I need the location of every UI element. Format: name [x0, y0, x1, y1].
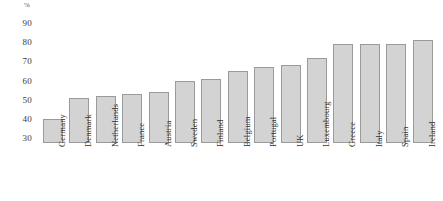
- x-tick-label-text: Finland: [215, 120, 225, 147]
- x-tick-label-text: Germany: [57, 114, 67, 147]
- y-tick-label: 50: [22, 95, 32, 105]
- bar: [360, 44, 380, 143]
- y-tick-label: 70: [22, 56, 32, 66]
- x-axis: GermanyDenmarkNetherlandsFranceAustriaSw…: [40, 145, 436, 201]
- x-tick-label-text: Denmark: [83, 114, 93, 147]
- plot-area: [40, 10, 436, 143]
- x-tick-label-text: Ireland: [427, 122, 437, 147]
- y-tick-label: 60: [22, 76, 32, 86]
- bar-chart: % 30405060708090 GermanyDenmarkNetherlan…: [0, 0, 443, 201]
- x-tick-label-text: UK: [295, 134, 305, 147]
- x-tick-label-text: Belgium: [242, 116, 252, 147]
- x-tick-label-text: Italy: [374, 130, 384, 147]
- y-tick-label: 40: [22, 114, 32, 124]
- y-tick-label: 90: [22, 18, 32, 28]
- y-tick-label: 80: [22, 37, 32, 47]
- x-tick-label-text: Portugal: [268, 117, 278, 147]
- bar: [281, 65, 301, 143]
- x-tick-label-text: France: [136, 123, 146, 147]
- bar-series: [40, 10, 436, 143]
- x-tick-label-text: Luxembourg: [321, 101, 331, 147]
- x-tick-label-text: Netherlands: [110, 104, 120, 147]
- x-tick-label-text: Greece: [347, 122, 357, 147]
- x-tick-label-text: Austria: [163, 121, 173, 147]
- x-tick-label-text: Sweden: [189, 119, 199, 147]
- y-axis: 30405060708090: [0, 0, 40, 201]
- x-tick-label-text: Spain: [400, 127, 410, 147]
- y-tick-label: 30: [22, 133, 32, 143]
